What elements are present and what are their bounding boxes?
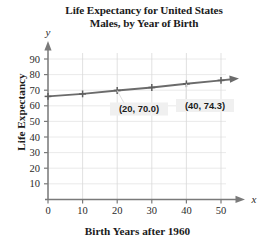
y-tick-label-90: 90 (30, 54, 41, 65)
annotation-label-20: (20, 70.0) (119, 103, 159, 114)
annotation-label-40: (40, 74.3) (185, 100, 225, 111)
x-tick-label-20: 20 (112, 205, 123, 216)
annotation-point-40: (40, 74.3) (176, 99, 234, 112)
figure-container: Life Expectancy for United States Males,… (0, 0, 268, 249)
x-axis-title: Birth Years after 1960 (30, 225, 245, 237)
x-tick-label-30: 30 (147, 205, 158, 216)
y-tick-label-30: 30 (30, 147, 41, 158)
y-tick-label-80: 80 (30, 69, 41, 80)
y-tick-label-40: 40 (30, 132, 41, 143)
x-tick-label-10: 10 (77, 205, 88, 216)
x-tick-label-50: 50 (216, 205, 227, 216)
y-axis-title: Life Expectancy (15, 52, 27, 172)
x-axis-symbol: x (251, 193, 257, 205)
data-series-life-expectancy (48, 76, 239, 97)
y-tick-labels: 90 80 70 60 50 40 30 20 10 (30, 54, 41, 190)
x-tick-labels: 0 10 20 30 40 50 (45, 205, 226, 216)
y-tick-label-20: 20 (30, 163, 41, 174)
y-tick-label-70: 70 (30, 85, 41, 96)
line-chart-plot: 90 80 70 60 50 40 30 20 10 0 10 20 30 40… (0, 0, 268, 249)
y-axis-symbol: y (45, 26, 51, 38)
figure-caption (0, 240, 268, 249)
y-tick-label-10: 10 (30, 178, 41, 189)
y-tick-label-60: 60 (30, 100, 41, 111)
annotation-point-20: (20, 70.0) (110, 103, 168, 116)
x-tick-label-40: 40 (181, 205, 192, 216)
y-tick-label-50: 50 (30, 116, 41, 127)
y-axis (44, 41, 52, 199)
x-tick-label-0: 0 (45, 205, 50, 216)
x-axis (45, 196, 245, 204)
grid-lines (48, 53, 226, 199)
